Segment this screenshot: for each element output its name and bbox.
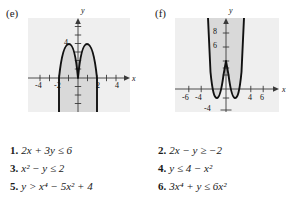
y-tick-label-e-0: 4 [64, 38, 68, 47]
x-tick-label-e-1: -2 [54, 81, 61, 90]
x-tick-label-e-2: 2 [96, 81, 100, 90]
y-axis-label-e: y [81, 6, 85, 15]
y-axis-arrow-e [75, 18, 81, 24]
x-axis-arrow-e [124, 75, 130, 81]
exercise-number: 1. [10, 144, 18, 156]
exercise-expression: 3x⁴ + y ≤ 6x² [169, 180, 226, 192]
x-tick-label-e-0: -4 [35, 81, 42, 90]
panel-label-f: (f) [155, 7, 166, 19]
panel-f: (f) [149, 0, 298, 112]
panel-e: (e) [0, 0, 149, 112]
exercise-number: 3. [10, 162, 18, 174]
y-axis-label-f: y [229, 6, 233, 15]
exercise-item: 6.3x⁴ + y ≤ 6x² [158, 180, 298, 193]
exercise-number: 6. [158, 180, 166, 192]
exercise-expression: x² − y ≤ 2 [21, 162, 64, 174]
panel-label-e: (e) [6, 7, 18, 19]
exercise-expression: y > x⁴ − 5x² + 4 [21, 180, 93, 192]
x-tick-label-f-2: 4 [248, 93, 252, 102]
exercise-number: 5. [10, 180, 18, 192]
exercise-item: 3.x² − y ≤ 2 [10, 162, 150, 175]
y-tick-label-f-1: 6 [213, 41, 217, 50]
x-tick-label-f-3: 6 [260, 93, 264, 102]
x-tick-label-f-1: -4 [195, 93, 202, 102]
x-axis-label-f: x [282, 85, 286, 94]
y-tick-label-f-0: 8 [213, 27, 217, 36]
exercise-number: 2. [158, 144, 166, 156]
x-tick-label-f-0: -6 [182, 93, 189, 102]
graph-e-svg [28, 18, 130, 112]
exercise-item: 1.2x + 3y ≤ 6 [10, 144, 150, 157]
exercise-column-right: 2.2x − y ≥ −2 4.y ≤ 4 − x² 6.3x⁴ + y ≤ 6… [158, 144, 298, 198]
exercise-expression: y ≤ 4 − x² [169, 162, 212, 174]
x-tick-label-e-3: 4 [115, 81, 119, 90]
exercise-column-left: 1.2x + 3y ≤ 6 3.x² − y ≤ 2 5.y > x⁴ − 5x… [10, 144, 150, 198]
exercise-item: 2.2x − y ≥ −2 [158, 144, 298, 157]
exercise-expression: 2x − y ≥ −2 [169, 144, 222, 156]
y-tick-label-f-2: -4 [204, 104, 211, 113]
exercise-expression: 2x + 3y ≤ 6 [21, 144, 72, 156]
exercise-item: 4.y ≤ 4 − x² [158, 162, 298, 175]
plot-area-e [28, 18, 130, 112]
figure-page: (e) [0, 0, 298, 219]
x-axis-label-e: x [132, 74, 136, 83]
x-axis-arrow-f [273, 86, 279, 92]
exercise-number: 4. [158, 162, 166, 174]
exercise-item: 5.y > x⁴ − 5x² + 4 [10, 180, 150, 193]
